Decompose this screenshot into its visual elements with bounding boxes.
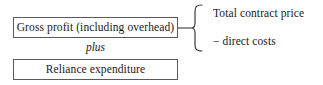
diagram-canvas: Gross profit (including overhead) plus R…: [0, 0, 323, 85]
box-reliance-expenditure-label: Reliance expenditure: [46, 64, 145, 76]
brace-item-total-contract-price: Total contract price: [213, 8, 304, 20]
box-gross-profit-label: Gross profit (including overhead): [17, 22, 175, 34]
brace-item-direct-costs-label: − direct costs: [213, 35, 276, 47]
box-gross-profit: Gross profit (including overhead): [13, 17, 178, 38]
brace-item-total-contract-price-label: Total contract price: [213, 7, 304, 19]
plus-operator-label: plus: [86, 41, 105, 53]
brace-connector-group: [178, 0, 204, 56]
curly-brace-icon: [192, 5, 203, 51]
brace-item-direct-costs: − direct costs: [213, 36, 276, 48]
plus-operator: plus: [13, 42, 178, 54]
box-reliance-expenditure: Reliance expenditure: [13, 59, 178, 80]
